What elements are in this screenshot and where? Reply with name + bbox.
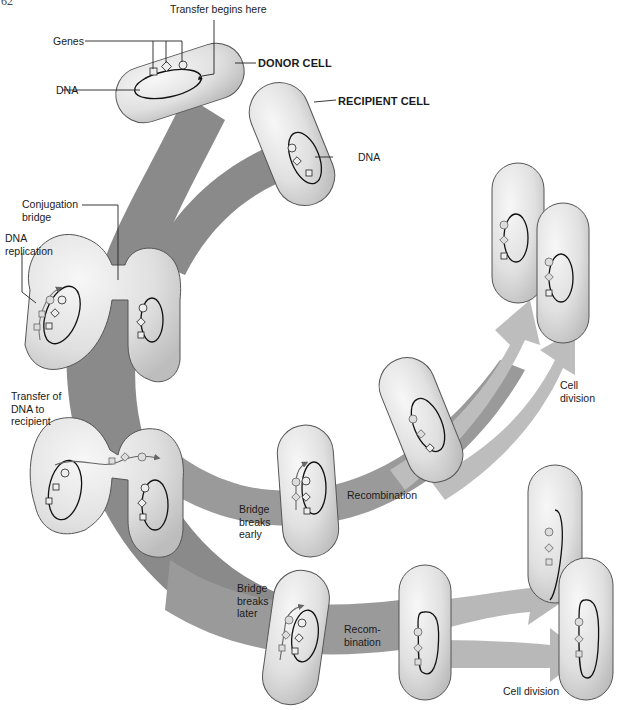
label-recombination-later: Recom- bination bbox=[344, 623, 381, 648]
early-daughter-cells bbox=[492, 163, 589, 343]
label-dna-replication: DNA replication bbox=[5, 232, 53, 257]
gene-circle bbox=[179, 61, 187, 69]
label-transfer-to-recipient: Transfer of DNA to recipient bbox=[11, 390, 61, 428]
bridge-breaks-early-cell bbox=[275, 423, 340, 559]
bacterial-conjugation-diagram bbox=[0, 0, 619, 710]
label-recombination-early: Recombination bbox=[347, 489, 417, 502]
label-bridge-breaks-early: Bridge breaks early bbox=[239, 503, 271, 541]
label-donor-dna: DNA bbox=[56, 84, 78, 97]
label-conjugation-bridge: Conjugation bridge bbox=[22, 198, 78, 223]
label-bridge-breaks-later: Bridge breaks later bbox=[237, 582, 269, 620]
label-cell-division-later: Cell division bbox=[503, 685, 559, 698]
recombination-later-cell bbox=[399, 565, 451, 700]
label-recipient-cell: RECIPIENT CELL bbox=[338, 95, 430, 108]
gene-square bbox=[150, 68, 157, 75]
label-recipient-dna: DNA bbox=[358, 151, 380, 164]
bridge-breaks-later-cell bbox=[259, 567, 333, 708]
label-cell-division-early: Cell division bbox=[560, 379, 595, 404]
label-donor-cell: DONOR CELL bbox=[258, 57, 332, 70]
label-genes: Genes bbox=[53, 35, 84, 48]
label-transfer-begins: Transfer begins here bbox=[170, 3, 267, 16]
